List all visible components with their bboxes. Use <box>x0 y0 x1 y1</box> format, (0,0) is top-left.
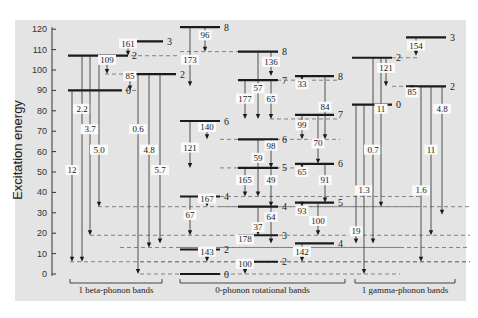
arrowhead-icon <box>188 81 192 86</box>
band-group-label: 0-phonon rotational bands <box>215 285 310 295</box>
arrowhead-icon <box>419 257 423 262</box>
spin-label: 0 <box>224 269 229 280</box>
transition-value: 57 <box>254 83 264 93</box>
spin-label: 3 <box>450 32 455 43</box>
arrowhead-icon <box>269 71 273 76</box>
transition-value: 64 <box>267 212 277 222</box>
transition-value: 19 <box>352 226 362 236</box>
spin-label: 8 <box>282 46 287 57</box>
transition-value: 85 <box>126 71 136 81</box>
arrowhead-icon <box>440 210 444 215</box>
arrowhead-icon <box>188 230 192 235</box>
spin-label: 4 <box>282 201 287 212</box>
transition-value: 85 <box>408 87 418 97</box>
spin-label: 5 <box>338 197 343 208</box>
band-bracket <box>70 279 162 283</box>
arrowhead-icon <box>379 202 383 207</box>
transition-value: 109 <box>100 55 114 65</box>
spin-label: 4 <box>224 191 229 202</box>
y-tick-label: 30 <box>37 208 47 218</box>
y-axis-label: Excitation energy <box>10 100 25 200</box>
y-tick-label: 50 <box>37 167 47 177</box>
transition-value: 49 <box>267 175 277 185</box>
arrowhead-icon <box>362 269 366 274</box>
arrowhead-icon <box>384 81 388 86</box>
y-tick-label: 100 <box>32 65 47 75</box>
y-tick-label: 40 <box>37 187 47 197</box>
transition-value: 121 <box>379 63 393 73</box>
arrowhead-icon <box>269 238 273 243</box>
transition-value: 100 <box>238 259 252 269</box>
transition-value: 11 <box>377 104 386 114</box>
arrowhead-icon <box>203 47 207 52</box>
arrowhead-icon <box>256 114 260 119</box>
arrowhead-icon <box>243 114 247 119</box>
transition-value: 84 <box>321 102 331 112</box>
transition-value: 167 <box>200 194 214 204</box>
transition-value: 65 <box>298 167 308 177</box>
y-tick-label: 80 <box>37 106 47 116</box>
arrowhead-icon <box>158 238 162 243</box>
spin-label: 2 <box>450 81 455 92</box>
spin-label: 7 <box>282 75 287 86</box>
transition-value: 33 <box>298 79 308 89</box>
band-group-label: 1 gamma-phonon bands <box>362 285 449 295</box>
transition-value: 1.6 <box>415 185 427 195</box>
band-bracket <box>180 279 345 283</box>
transition-value: 65 <box>267 94 277 104</box>
transition-value: 4.8 <box>143 145 155 155</box>
y-tick-label: 70 <box>37 126 47 136</box>
level-scheme-diagram: 0102030405060708090100110120Excitation e… <box>0 0 478 318</box>
arrowhead-icon <box>80 257 84 262</box>
band-group-label: 1 beta-phonon bands <box>79 285 154 295</box>
arrowhead-icon <box>105 69 109 74</box>
transition-value: 154 <box>409 41 423 51</box>
transition-value: 3.7 <box>84 124 96 134</box>
arrowhead-icon <box>243 191 247 196</box>
arrowhead-icon <box>243 269 247 274</box>
spin-label: 3 <box>167 36 172 47</box>
spin-label: 7 <box>338 109 343 120</box>
transition-value: 177 <box>238 94 252 104</box>
arrowhead-icon <box>188 163 192 168</box>
transition-value: 99 <box>298 120 308 130</box>
arrowhead-icon <box>429 230 433 235</box>
transition-value: 5.7 <box>154 165 166 175</box>
transition-value: 67 <box>186 210 196 220</box>
transition-value: 91 <box>321 175 330 185</box>
spin-label: 2 <box>132 50 137 61</box>
spin-label: 2 <box>224 244 229 255</box>
arrowhead-icon <box>97 202 101 207</box>
transition-value: 140 <box>200 122 214 132</box>
y-tick-label: 20 <box>37 228 47 238</box>
spin-label: 2 <box>396 52 401 63</box>
transition-value: 93 <box>298 206 308 216</box>
transition-value: 11 <box>427 145 436 155</box>
arrowhead-icon <box>300 257 304 262</box>
spin-label: 6 <box>282 134 287 145</box>
spin-label: 5 <box>282 162 287 173</box>
arrowhead-icon <box>371 238 375 243</box>
transition-value: 59 <box>254 153 264 163</box>
y-tick-label: 60 <box>37 147 47 157</box>
arrowhead-icon <box>88 230 92 235</box>
transition-value: 4.8 <box>436 104 448 114</box>
transition-value: 2.2 <box>76 104 87 114</box>
transition-value: 143 <box>200 247 214 257</box>
transition-value: 70 <box>314 138 324 148</box>
transition-value: 0.7 <box>367 145 379 155</box>
transition-value: 1.3 <box>358 185 370 195</box>
arrowhead-icon <box>136 269 140 274</box>
transition-value: 136 <box>264 57 278 67</box>
spin-label: 2 <box>180 69 185 80</box>
transition-value: 5.0 <box>93 145 105 155</box>
spin-label: 4 <box>338 238 343 249</box>
arrowhead-icon <box>205 257 209 262</box>
arrowhead-icon <box>205 134 209 139</box>
arrowhead-icon <box>300 134 304 139</box>
spin-label: 3 <box>282 230 287 241</box>
arrowhead-icon <box>269 114 273 119</box>
transition-value: 100 <box>311 216 325 226</box>
arrowhead-icon <box>414 51 418 56</box>
spin-label: 6 <box>338 158 343 169</box>
